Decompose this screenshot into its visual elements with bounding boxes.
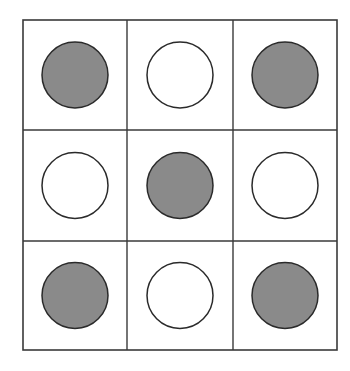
empty-circle [42, 153, 108, 219]
filled-circle [42, 42, 108, 108]
empty-circle [147, 263, 213, 329]
empty-circle [147, 42, 213, 108]
filled-circle [42, 263, 108, 329]
filled-circle [252, 42, 318, 108]
empty-circle [252, 153, 318, 219]
filled-circle [252, 263, 318, 329]
circles [42, 42, 318, 329]
circle-grid-diagram [0, 0, 350, 371]
filled-circle [147, 153, 213, 219]
